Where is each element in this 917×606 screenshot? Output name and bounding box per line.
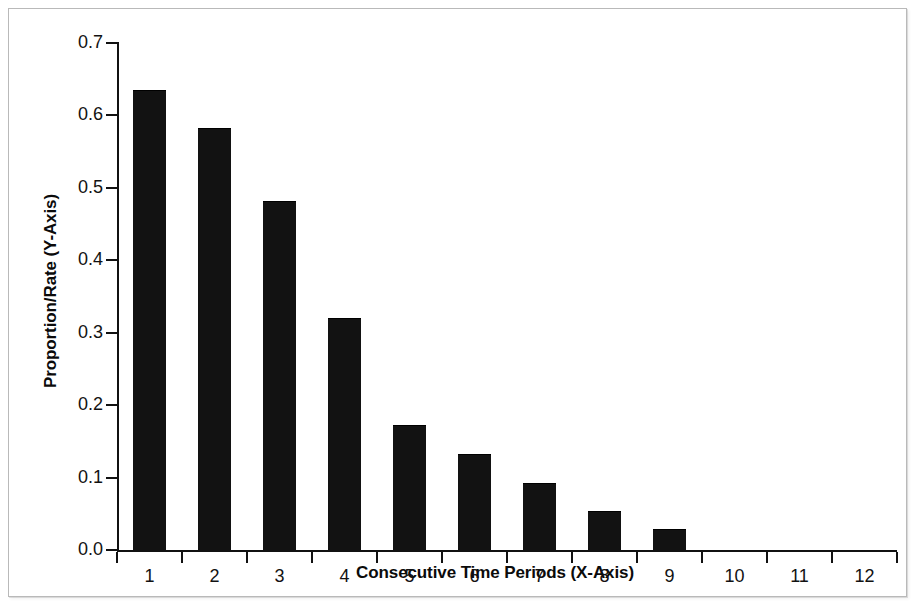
y-axis-tick-label: 0.2	[78, 394, 103, 415]
y-axis-tick	[106, 332, 119, 334]
bar	[198, 128, 231, 550]
x-axis-tick	[701, 552, 703, 563]
x-axis-tick-label: 11	[790, 566, 809, 587]
y-axis-tick	[106, 259, 119, 261]
x-axis-tick	[831, 552, 833, 563]
plot-area: 0.00.10.20.30.40.50.60.7 123456789101112	[117, 43, 897, 552]
y-axis-tick	[106, 42, 119, 44]
y-axis-tick-label: 0.1	[78, 467, 103, 488]
y-axis-tick-label: 0.3	[78, 322, 103, 343]
y-axis-tick	[106, 477, 119, 479]
x-axis-tick	[766, 552, 768, 563]
x-axis-tick-label: 8	[599, 566, 609, 587]
bar	[328, 318, 361, 550]
bar	[653, 529, 686, 550]
y-axis-tick-label: 0.0	[78, 539, 103, 560]
bar	[588, 511, 621, 550]
x-axis-tick	[896, 552, 898, 563]
bar	[458, 454, 491, 550]
bar	[263, 201, 296, 550]
y-axis-tick	[106, 549, 119, 551]
x-axis-tick	[311, 552, 313, 563]
y-axis-tick	[106, 404, 119, 406]
x-axis-tick-label: 9	[664, 566, 674, 587]
x-axis-tick	[376, 552, 378, 563]
x-axis-tick-label: 6	[469, 566, 479, 587]
y-axis-tick-label: 0.6	[78, 104, 103, 125]
bar	[133, 90, 166, 550]
x-axis-tick-label: 12	[854, 566, 874, 587]
x-axis-tick	[636, 552, 638, 563]
x-axis-tick	[246, 552, 248, 563]
x-axis-tick-label: 3	[274, 566, 284, 587]
x-axis-tick	[441, 552, 443, 563]
x-axis-tick-label: 2	[209, 566, 219, 587]
x-axis-tick-label: 1	[144, 566, 154, 587]
x-axis-tick-label: 4	[339, 566, 349, 587]
x-axis-tick	[116, 552, 118, 563]
y-axis-tick	[106, 187, 119, 189]
y-axis-tick-label: 0.4	[78, 249, 103, 270]
x-axis-tick	[571, 552, 573, 563]
x-axis-tick-label: 10	[724, 566, 744, 587]
page-frame: Proportion/Rate (Y-Axis) Consecutive Tim…	[8, 8, 907, 597]
y-axis-tick	[106, 114, 119, 116]
x-axis-tick	[181, 552, 183, 563]
x-axis-title: Consecutive Time Periods (X-Axis)	[105, 563, 885, 583]
bar	[523, 483, 556, 550]
y-axis-tick-label: 0.7	[78, 32, 103, 53]
x-axis-tick-label: 5	[404, 566, 414, 587]
bar	[393, 425, 426, 550]
x-axis-tick	[506, 552, 508, 563]
y-axis-tick-label: 0.5	[78, 177, 103, 198]
y-axis-title: Proportion/Rate (Y-Axis)	[41, 131, 61, 451]
x-axis-tick-label: 7	[534, 566, 544, 587]
bar-chart-figure: Proportion/Rate (Y-Axis) Consecutive Tim…	[9, 9, 908, 598]
